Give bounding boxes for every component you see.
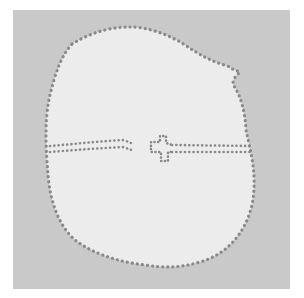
divider-right-upper xyxy=(172,145,252,146)
shape-body xyxy=(46,27,254,267)
dotted-shape-illustration xyxy=(0,0,304,298)
